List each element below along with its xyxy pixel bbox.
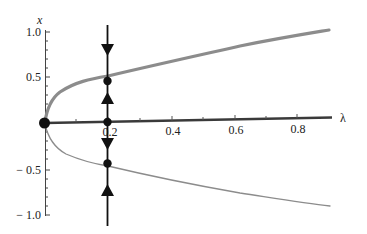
x-tick-label: 0.2 [103, 125, 118, 139]
stable-fixed-point [103, 159, 111, 167]
lambda-axis [45, 118, 332, 124]
lower-branch-curve [45, 124, 330, 206]
y-tick-label: 1.0 [26, 25, 41, 39]
arrow-down-icon [101, 44, 114, 56]
upper-branch-curve [45, 30, 329, 122]
x-tick-label: 0.4 [166, 124, 181, 138]
x-axis-label: λ [340, 111, 346, 125]
arrow-up-icon [101, 92, 114, 104]
bifurcation-chart: x 1.0 0.5 − 0.5 − 1.0 λ 0.2 0.4 0.6 0.8 [0, 0, 367, 234]
stable-fixed-point [103, 77, 111, 85]
x-tick-label: 0.6 [229, 123, 244, 137]
y-tick-label: − 1.0 [16, 208, 41, 222]
y-tick-label: 0.5 [26, 70, 41, 84]
arrow-down-icon [101, 138, 114, 150]
y-tick-label: − 0.5 [16, 163, 41, 177]
arrow-up-icon [101, 184, 114, 196]
x-tick-label: 0.8 [291, 122, 306, 136]
unstable-fixed-point [103, 118, 111, 126]
bifurcation-point [39, 118, 50, 129]
